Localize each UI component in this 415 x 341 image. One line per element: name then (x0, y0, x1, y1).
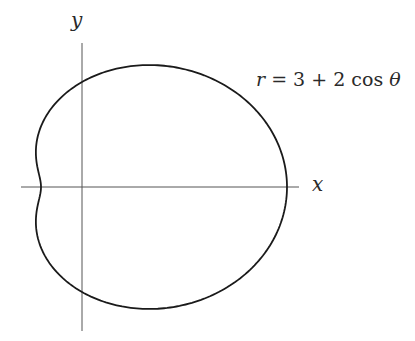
equation-label: r = 3 + 2 cos θ (256, 70, 401, 89)
equation-r: r (256, 68, 265, 90)
equation-theta: θ (389, 68, 400, 90)
x-axis-label: x (312, 174, 323, 194)
equation-body: = 3 + 2 cos (265, 68, 389, 90)
limacon-diagram (0, 0, 415, 341)
y-axis-label: y (71, 10, 82, 30)
